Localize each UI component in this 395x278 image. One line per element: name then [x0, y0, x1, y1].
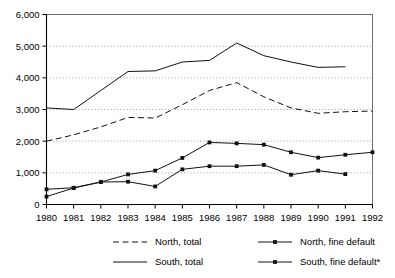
- y-tick-label: 2,000: [16, 136, 40, 147]
- data-point-marker: [343, 172, 347, 176]
- x-tick-label: 1987: [226, 212, 247, 223]
- legend-marker-sample: [273, 240, 277, 244]
- x-tick-label: 1986: [199, 212, 220, 223]
- x-tick-label: 1981: [63, 212, 84, 223]
- data-point-marker: [343, 153, 347, 157]
- x-tick-label: 1984: [145, 212, 166, 223]
- y-tick-label: 4,000: [16, 72, 40, 83]
- data-point-marker: [289, 173, 293, 177]
- line-chart: 01,0002,0003,0004,0005,0006,000 19801981…: [0, 0, 395, 278]
- data-point-marker: [316, 156, 320, 160]
- y-tick-label: 0: [34, 199, 39, 210]
- legend-label: South, total: [155, 256, 203, 267]
- legend-marker-sample: [273, 260, 277, 264]
- data-point-marker: [262, 143, 266, 147]
- x-tick-label: 1982: [90, 212, 111, 223]
- data-point-marker: [72, 186, 76, 190]
- legend-label: South, fine default*: [300, 256, 381, 267]
- x-tick-label: 1988: [253, 212, 274, 223]
- x-tick-label: 1989: [280, 212, 301, 223]
- y-tick-label: 1,000: [16, 167, 40, 178]
- data-point-marker: [180, 167, 184, 171]
- y-tick-label: 3,000: [16, 104, 40, 115]
- y-tick-label: 5,000: [16, 41, 40, 52]
- data-point-marker: [208, 141, 212, 145]
- data-point-marker: [126, 173, 130, 177]
- data-point-marker: [289, 150, 293, 154]
- chart-figure: 01,0002,0003,0004,0005,0006,000 19801981…: [0, 0, 395, 278]
- x-tick-label: 1983: [117, 212, 138, 223]
- data-point-marker: [153, 185, 157, 189]
- data-point-marker: [180, 156, 184, 160]
- data-point-marker: [153, 169, 157, 173]
- x-tick-label: 1985: [172, 212, 193, 223]
- data-point-marker: [316, 169, 320, 173]
- data-point-marker: [208, 164, 212, 168]
- data-point-marker: [126, 180, 130, 184]
- data-point-marker: [99, 180, 103, 184]
- x-tick-label: 1992: [362, 212, 383, 223]
- data-point-marker: [235, 141, 239, 145]
- data-point-marker: [45, 195, 49, 199]
- data-point-marker: [262, 163, 266, 167]
- data-point-marker: [235, 164, 239, 168]
- x-tick-label: 1980: [36, 212, 57, 223]
- data-point-marker: [371, 150, 375, 154]
- legend-label: North, total: [155, 236, 201, 247]
- data-point-marker: [45, 187, 49, 191]
- y-tick-label: 6,000: [16, 9, 40, 20]
- x-tick-label: 1991: [335, 212, 356, 223]
- legend-label: North, fine default: [300, 236, 375, 247]
- x-tick-label: 1990: [308, 212, 329, 223]
